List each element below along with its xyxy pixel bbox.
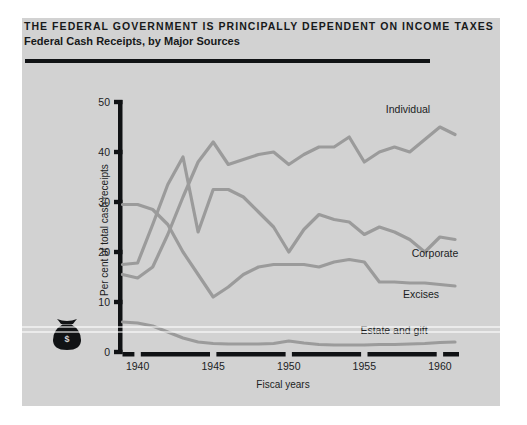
x-tick-label: 1960 [428,360,452,372]
series-label-corporate: Corporate [412,247,459,259]
y-axis-title: Per cent of total cash receipts [99,164,110,296]
x-axis-segment [141,352,210,357]
chart-plot-area: 01020304050 19401945195019551960 Per cen… [0,0,478,388]
x-axis-segment [216,352,285,357]
x-axis-segment [443,352,459,357]
x-tick-label: 1955 [353,360,377,372]
series-label-excises: Excises [403,288,439,300]
y-tick-mark [114,300,123,304]
series-line-individual [123,127,456,278]
series-label-individual: Individual [386,103,430,115]
y-tick-label: 40 [98,146,110,158]
x-axis-segment [368,352,437,357]
x-axis: 19401945195019551960 [123,352,460,372]
y-tick-label: 10 [98,296,110,308]
screenshot-page: THE FEDERAL GOVERNMENT IS PRINCIPALLY DE… [0,0,527,425]
series-label-estate-and-gift: Estate and gift [360,324,427,336]
line-chart: 01020304050 19401945195019551960 Per cen… [0,0,527,425]
x-axis-segment [123,352,135,357]
x-tick-label: 1945 [202,360,226,372]
x-tick-label: 1940 [126,360,150,372]
y-tick-mark [114,100,123,104]
x-tick-label: 1950 [277,360,301,372]
series-labels: IndividualCorporateExcisesEstate and gif… [360,103,458,336]
series-line-corporate [123,157,456,265]
x-axis-segment [292,352,361,357]
y-tick-mark [114,150,123,154]
y-tick-label: 50 [98,96,110,108]
series-lines [123,127,456,345]
y-tick-mark [114,250,123,254]
y-tick-mark [114,350,123,354]
x-axis-title: Fiscal years [256,379,309,390]
y-tick-label: 0 [104,346,110,358]
